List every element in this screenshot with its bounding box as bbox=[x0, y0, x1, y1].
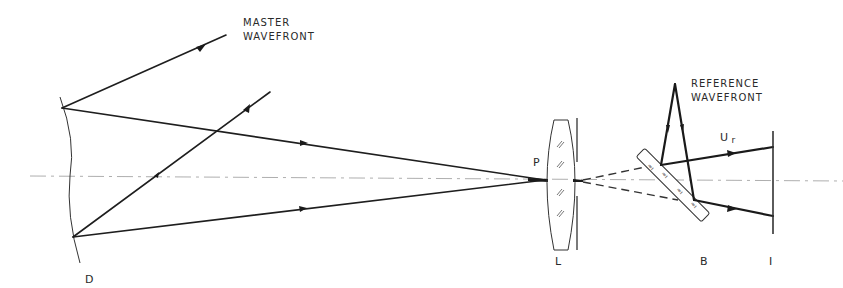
label-lens-l: L bbox=[555, 255, 562, 268]
label-focus-p: P bbox=[533, 156, 540, 169]
label-master-wavefront-2: WAVEFRONT bbox=[243, 31, 315, 42]
lens-l bbox=[547, 120, 575, 250]
label-image-plane-i: I bbox=[769, 255, 773, 268]
dashed-ray-upper bbox=[583, 165, 655, 180]
label-u: U bbox=[720, 131, 729, 144]
reference-ray-down bbox=[661, 84, 675, 165]
arrow-icon bbox=[727, 205, 737, 212]
label-beam-splitter-b: B bbox=[700, 255, 708, 268]
label-u-subscript: r bbox=[732, 135, 736, 145]
label-reference-field-u: Ur bbox=[720, 131, 736, 145]
label-reference-wavefront-2: WAVEFRONT bbox=[691, 92, 763, 103]
label-reference-wavefront-1: REFERENCE bbox=[691, 78, 759, 89]
arrow-icon bbox=[196, 44, 206, 52]
reflected-ray-lower bbox=[73, 180, 545, 237]
arrow-icon bbox=[727, 150, 736, 157]
label-mirror-d: D bbox=[85, 273, 94, 286]
optical-diagram: ≈ı ≈ı ≈ı ≈ı MASTER WAVEFRONT REFERENCE W… bbox=[0, 0, 843, 288]
output-ray-upper bbox=[661, 147, 773, 165]
label-master-wavefront-1: MASTER bbox=[243, 17, 290, 28]
mirror-d bbox=[60, 97, 80, 263]
